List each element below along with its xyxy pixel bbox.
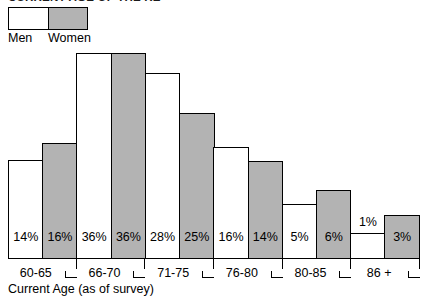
bar-6670-women: 36%: [111, 53, 147, 258]
category-leader-rule: [408, 277, 420, 278]
bar-value-label: 36%: [82, 231, 107, 259]
legend-labels: Men Women: [8, 31, 104, 45]
legend-label-women: Women: [48, 31, 104, 45]
bar-value-label: 28%: [150, 231, 175, 259]
plot-area: 14%16%36%36%28%25%16%14%5%6%1%3%: [8, 46, 420, 258]
bar-value-label: 16%: [47, 231, 72, 259]
bar-8085-women: 6%: [316, 190, 352, 258]
category-6670: 66-70: [77, 258, 146, 282]
bar-86-men: 1%: [350, 233, 386, 258]
bar-value-label: 25%: [184, 231, 209, 259]
category-leader-rule: [202, 277, 214, 278]
bar-86-women: 3%: [384, 215, 420, 258]
legend-swatch-men: [9, 8, 48, 29]
bar-6065-women: 16%: [42, 143, 78, 258]
legend-swatch-women: [48, 8, 88, 29]
bar-6670-men: 36%: [76, 53, 112, 258]
bar-value-label: 6%: [325, 231, 343, 259]
bar-value-label: 5%: [290, 231, 308, 259]
bar-value-label: 16%: [219, 231, 244, 259]
category-tick: [419, 258, 420, 269]
category-leader-rule: [65, 277, 77, 278]
bar-value-label: 36%: [116, 231, 141, 259]
bar-group-container: 14%16%36%36%28%25%16%14%5%6%1%3%: [8, 46, 420, 258]
bar-7175-women: 25%: [179, 113, 215, 258]
bar-7175-men: 28%: [145, 73, 181, 258]
category-6065: 60-65: [8, 258, 77, 282]
chart-title: CURRENT AGE OF THE RE: [8, 0, 161, 3]
bar-value-label: 1%: [359, 216, 377, 244]
bar-7680-women: 14%: [248, 161, 284, 258]
category-7175: 71-75: [145, 258, 214, 282]
category-label: 60-65: [20, 267, 65, 283]
category-label: 66-70: [89, 267, 134, 283]
category-label: 76-80: [226, 267, 271, 283]
bar-value-label: 14%: [13, 231, 38, 259]
legend-swatches: [8, 7, 88, 30]
category-label: 80-85: [295, 267, 340, 283]
category-label: 86 +: [367, 267, 405, 283]
bar-6065-men: 14%: [8, 160, 44, 258]
x-axis-title: Current Age (as of survey): [8, 282, 154, 296]
category-86: 86 +: [351, 258, 420, 282]
category-8085: 80-85: [283, 258, 352, 282]
bar-value-label: 14%: [253, 231, 278, 259]
bar-value-label: 3%: [393, 231, 411, 259]
legend: Men Women: [8, 7, 104, 45]
category-leader-rule: [133, 277, 145, 278]
category-label-row: 60-6566-7071-7576-8080-8586 +: [8, 258, 420, 282]
category-leader-rule: [271, 277, 283, 278]
category-leader-rule: [339, 277, 351, 278]
bar-7680-men: 16%: [213, 147, 249, 258]
bar-8085-men: 5%: [282, 204, 318, 258]
category-7680: 76-80: [214, 258, 283, 282]
legend-label-men: Men: [8, 31, 48, 45]
category-label: 71-75: [157, 267, 202, 283]
